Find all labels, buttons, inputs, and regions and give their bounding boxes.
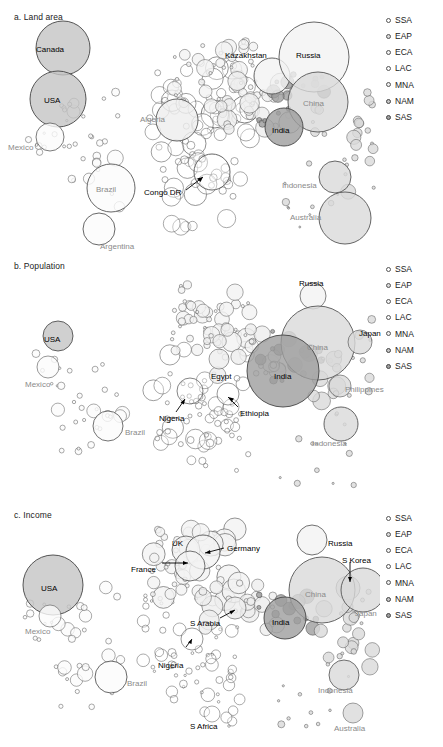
country-bubble-minor[interactable]: [67, 368, 72, 373]
legend-item-sas[interactable]: SAS: [386, 360, 412, 372]
country-bubble-minor[interactable]: [100, 581, 113, 594]
country-bubble-minor[interactable]: [282, 198, 289, 205]
country-bubble-minor[interactable]: [32, 350, 40, 358]
legend-item-lac[interactable]: LAC: [386, 312, 412, 324]
country-bubble-minor[interactable]: [160, 166, 166, 172]
legend-item-sas[interactable]: SAS: [386, 111, 412, 123]
country-bubble-minor[interactable]: [217, 97, 220, 100]
country-bubble-minor[interactable]: [165, 429, 171, 435]
country-bubble-minor[interactable]: [148, 576, 160, 588]
country-bubble-minor[interactable]: [233, 655, 237, 659]
country-bubble-minor[interactable]: [188, 221, 197, 230]
country-bubble-minor[interactable]: [203, 463, 207, 467]
country-bubble-minor[interactable]: [200, 691, 203, 694]
country-bubble-minor[interactable]: [150, 553, 159, 562]
country-bubble-minor[interactable]: [187, 141, 195, 149]
country-bubble-minor[interactable]: [213, 335, 226, 348]
country-bubble-minor[interactable]: [219, 302, 233, 316]
country-bubble-minor[interactable]: [92, 366, 98, 372]
country-bubble-minor[interactable]: [151, 665, 155, 669]
country-bubble-minor[interactable]: [59, 704, 63, 708]
country-bubble-minor[interactable]: [323, 652, 334, 663]
country-bubble-minor[interactable]: [66, 678, 69, 681]
country-bubble-minor[interactable]: [278, 721, 285, 728]
country-bubble-minor[interactable]: [151, 592, 156, 597]
country-bubble-minor[interactable]: [23, 615, 27, 619]
country-bubble-minor[interactable]: [144, 598, 148, 602]
country-bubble-minor[interactable]: [224, 420, 228, 424]
country-bubble-minor[interactable]: [143, 603, 149, 609]
country-bubble-minor[interactable]: [195, 680, 199, 684]
legend-item-eca[interactable]: ECA: [386, 46, 412, 58]
country-bubble-minor[interactable]: [81, 157, 85, 161]
country-bubble-minor[interactable]: [27, 610, 34, 617]
country-bubble-s-africa[interactable]: [204, 706, 220, 722]
country-bubble-minor[interactable]: [279, 477, 281, 479]
country-bubble-minor[interactable]: [287, 717, 290, 720]
country-bubble-minor[interactable]: [209, 334, 214, 339]
country-bubble-minor[interactable]: [173, 56, 176, 59]
country-bubble-minor[interactable]: [206, 439, 214, 447]
country-bubble-minor[interactable]: [316, 722, 320, 726]
country-bubble-minor[interactable]: [190, 316, 197, 323]
country-bubble-minor[interactable]: [176, 584, 187, 595]
country-bubble-minor[interactable]: [210, 581, 223, 594]
country-bubble-minor[interactable]: [224, 124, 234, 134]
country-bubble-minor[interactable]: [116, 114, 120, 118]
country-bubble-minor[interactable]: [296, 436, 302, 442]
country-bubble-minor[interactable]: [231, 422, 240, 431]
country-bubble-minor[interactable]: [225, 625, 238, 638]
country-bubble-minor[interactable]: [228, 72, 247, 91]
country-bubble-minor[interactable]: [343, 158, 347, 162]
country-bubble-minor[interactable]: [341, 652, 344, 655]
country-bubble-minor[interactable]: [168, 372, 172, 376]
legend-item-ssa[interactable]: SSA: [386, 512, 412, 524]
country-bubble-minor[interactable]: [309, 711, 313, 715]
country-bubble-indonesia[interactable]: [324, 407, 358, 441]
country-bubble-minor[interactable]: [241, 305, 244, 308]
country-bubble-minor[interactable]: [204, 338, 211, 345]
legend-item-mna[interactable]: MNA: [386, 328, 414, 340]
country-bubble-minor[interactable]: [352, 155, 358, 161]
country-bubble-minor[interactable]: [204, 433, 208, 437]
country-bubble-minor[interactable]: [33, 636, 37, 640]
legend-item-lac[interactable]: LAC: [386, 561, 412, 573]
country-bubble-minor[interactable]: [160, 627, 166, 633]
country-bubble-minor[interactable]: [82, 664, 89, 671]
country-bubble-minor[interactable]: [228, 665, 236, 673]
country-bubble-minor[interactable]: [137, 615, 149, 627]
country-bubble-minor[interactable]: [244, 334, 247, 337]
country-bubble-australia[interactable]: [343, 703, 363, 723]
country-bubble-minor[interactable]: [237, 436, 241, 440]
country-bubble-minor[interactable]: [97, 140, 104, 147]
country-bubble-brazil[interactable]: [93, 411, 123, 441]
country-bubble-minor[interactable]: [228, 675, 233, 680]
country-bubble-minor[interactable]: [174, 94, 177, 97]
country-bubble-minor[interactable]: [247, 302, 250, 305]
country-bubble-minor[interactable]: [59, 448, 64, 453]
country-bubble-minor[interactable]: [155, 70, 161, 76]
legend-item-nam[interactable]: NAM: [386, 344, 414, 356]
country-bubble-australia[interactable]: [319, 192, 371, 244]
country-bubble-minor[interactable]: [282, 685, 284, 687]
country-bubble-minor[interactable]: [365, 156, 375, 166]
country-bubble-minor[interactable]: [170, 695, 178, 703]
country-bubble-minor[interactable]: [298, 693, 302, 697]
country-bubble-minor[interactable]: [88, 442, 95, 449]
country-bubble-egypt[interactable]: [209, 349, 229, 369]
legend-item-nam[interactable]: NAM: [386, 95, 414, 107]
legend-item-nam[interactable]: NAM: [386, 593, 414, 605]
country-bubble-minor[interactable]: [225, 428, 230, 433]
country-bubble-minor[interactable]: [37, 638, 41, 642]
country-bubble-minor[interactable]: [249, 339, 254, 344]
country-bubble-minor[interactable]: [360, 622, 363, 625]
country-bubble-russia[interactable]: [297, 525, 327, 555]
country-bubble-minor[interactable]: [215, 636, 218, 639]
country-bubble-congo-dr[interactable]: [194, 154, 230, 190]
country-bubble-minor[interactable]: [221, 324, 234, 337]
country-bubble-france[interactable]: [175, 551, 205, 581]
country-bubble-minor[interactable]: [106, 638, 112, 644]
country-bubble-minor[interactable]: [294, 480, 300, 486]
country-bubble-minor[interactable]: [365, 373, 374, 382]
country-bubble-minor[interactable]: [322, 132, 327, 137]
